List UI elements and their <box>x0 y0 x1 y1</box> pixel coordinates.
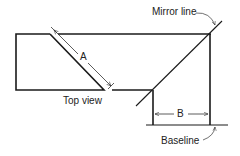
top-view-label: Top view <box>63 96 102 106</box>
mirror-line-leader <box>196 13 215 25</box>
baseline-leader <box>203 127 215 140</box>
auxiliary-view-diagram <box>0 0 240 156</box>
baseline-label: Baseline <box>161 136 199 146</box>
dimension-a-label: A <box>80 52 87 62</box>
mirror-line-label: Mirror line <box>152 7 196 17</box>
top-view-shape <box>16 34 104 90</box>
dimension-b-label: B <box>177 109 184 119</box>
